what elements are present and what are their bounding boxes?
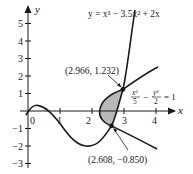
svg-text:2: 2 xyxy=(18,71,23,82)
svg-text:5: 5 xyxy=(133,97,137,106)
y-axis-label: y xyxy=(34,3,40,15)
upper-point-label: (2.966, 1.232) xyxy=(65,66,119,77)
svg-text:1: 1 xyxy=(57,115,62,126)
svg-text:0: 0 xyxy=(30,115,35,126)
intersection-point-upper xyxy=(121,87,126,92)
y-axis-arrow-icon xyxy=(25,5,32,13)
cubic-equation-label: y = x³ − 3.5x² + 2x xyxy=(88,9,160,19)
svg-text:5: 5 xyxy=(18,18,23,29)
svg-text:y²: y² xyxy=(152,88,159,97)
svg-text:4: 4 xyxy=(18,36,23,47)
lower-point-label: (2.608, −0.850) xyxy=(88,155,147,166)
hyperbola-equation-label: x² 5 − y² 2 = 1 xyxy=(131,88,176,106)
x-axis-label: x xyxy=(177,104,183,116)
svg-text:x²: x² xyxy=(131,88,138,97)
svg-text:−3: −3 xyxy=(12,158,23,169)
svg-text:−: − xyxy=(143,92,148,102)
svg-text:3: 3 xyxy=(18,53,23,64)
svg-text:2: 2 xyxy=(154,97,158,106)
svg-text:−1: −1 xyxy=(12,123,23,134)
x-tick-labels: 0 1 2 3 4 xyxy=(30,115,157,126)
svg-text:2: 2 xyxy=(86,115,91,126)
diagram-canvas: y x 0 1 2 3 4 5 4 3 2 1 −1 −2 −3 y = x³ … xyxy=(0,0,193,174)
intersection-point-lower xyxy=(109,124,114,129)
svg-text:4: 4 xyxy=(152,115,157,126)
cubic-curve xyxy=(26,10,135,146)
svg-text:3: 3 xyxy=(122,115,127,126)
svg-text:= 1: = 1 xyxy=(164,92,176,102)
svg-text:1: 1 xyxy=(18,88,23,99)
y-tick-labels: 5 4 3 2 1 −1 −2 −3 xyxy=(12,18,23,169)
x-axis-arrow-icon xyxy=(168,108,176,115)
svg-text:−2: −2 xyxy=(12,141,23,152)
axes xyxy=(20,12,175,168)
